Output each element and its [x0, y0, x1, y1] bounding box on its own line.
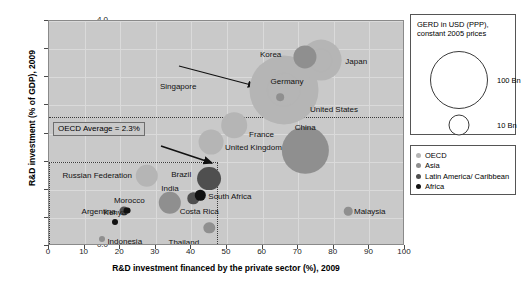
x-tick-label: 90 [353, 248, 383, 256]
x-tick-mark [368, 245, 369, 249]
point-label-united-kingdom: United Kingdom [225, 144, 282, 152]
point-label-malaysia: Malaysia [354, 208, 386, 216]
point-label-russian-federation: Russian Federation [63, 172, 132, 180]
x-tick-mark [333, 245, 334, 249]
size-legend-circle-10-bn [449, 115, 470, 136]
color-legend-item-asia[interactable]: Asia [416, 161, 510, 172]
bubble-france[interactable] [221, 112, 247, 138]
x-tick-mark [226, 245, 227, 249]
x-tick-label: 20 [104, 248, 134, 256]
bubble-singapore[interactable] [277, 93, 285, 101]
point-label-brazil: Brazil [171, 171, 191, 179]
point-label-costa-rica: Costa Rica [180, 208, 219, 216]
x-tick-label: 30 [140, 248, 170, 256]
x-tick-mark [155, 245, 156, 249]
point-label-thailand: Thailand [169, 239, 200, 245]
plot-area: KoreaJapanGermanySingaporeUnited StatesF… [48, 20, 404, 245]
color-legend-swatch [416, 153, 421, 158]
point-label-germany: Germany [271, 78, 304, 86]
color-legend: OECDAsiaLatin America/ CaribbeanAfrica [410, 145, 516, 195]
x-tick-label: 10 [69, 248, 99, 256]
point-label-japan: Japan [345, 58, 367, 66]
size-legend-title-line2: constant 2005 prices [417, 29, 486, 38]
x-tick-label: 80 [318, 248, 348, 256]
x-tick-mark [404, 245, 405, 249]
x-tick-mark [48, 245, 49, 249]
x-tick-label: 40 [175, 248, 205, 256]
color-legend-label: OECD [425, 152, 447, 160]
point-label-korea: Korea [260, 51, 281, 59]
color-legend-swatch [416, 184, 421, 189]
point-label-singapore: Singapore [160, 83, 196, 91]
size-legend-title-line1: GERD in USD (PPP), [417, 20, 489, 29]
point-label-morocco: Morocco [114, 197, 145, 205]
color-legend-swatch [416, 174, 421, 179]
bubble-korea[interactable] [294, 45, 317, 68]
color-legend-swatch [416, 163, 421, 168]
oecd-average-label: OECD Average = 2.3% [53, 122, 145, 136]
size-legend-label-100-bn: 100 Bn [497, 76, 521, 85]
bubble-brazil[interactable] [197, 167, 221, 191]
x-tick-mark [190, 245, 191, 249]
x-tick-label: 50 [211, 248, 241, 256]
point-label-china: China [295, 124, 316, 132]
point-label-france: France [249, 131, 274, 139]
x-tick-mark [84, 245, 85, 249]
bubble-kenya[interactable] [112, 219, 118, 225]
size-legend: GERD in USD (PPP), constant 2005 prices … [410, 14, 516, 135]
size-legend-label-10-bn: 10 Bn [497, 121, 517, 130]
y-axis-title: R&D investment (% of GDP), 2009 [27, 8, 37, 228]
bubble-malaysia[interactable] [344, 207, 353, 216]
color-legend-item-latin-america-caribbean[interactable]: Latin America/ Caribbean [416, 171, 510, 182]
color-legend-item-africa[interactable]: Africa [416, 182, 510, 193]
point-label-indonesia: Indonesia [107, 238, 142, 245]
bubble-united-kingdom[interactable] [199, 129, 224, 154]
chart-screenshot: R&D investment (% of GDP), 2009 R&D inve… [0, 0, 522, 282]
color-legend-label: Africa [425, 183, 444, 191]
size-legend-title: GERD in USD (PPP), constant 2005 prices [417, 20, 513, 39]
color-legend-label: Latin America/ Caribbean [425, 173, 509, 181]
color-legend-label: Asia [425, 162, 440, 170]
x-tick-label: 100 [389, 248, 419, 256]
x-tick-mark [262, 245, 263, 249]
x-tick-mark [119, 245, 120, 249]
size-legend-circle-100-bn [430, 51, 488, 109]
x-axis-title: R&D investment financed by the private s… [48, 263, 404, 273]
point-label-kenya: Kenya [104, 209, 127, 217]
point-label-south-africa: South Africa [208, 193, 251, 201]
x-tick-label: 70 [282, 248, 312, 256]
point-label-united-states: United States [310, 106, 358, 114]
x-tick-label: 0 [33, 248, 63, 256]
x-tick-label: 60 [247, 248, 277, 256]
color-legend-item-oecd[interactable]: OECD [416, 150, 510, 161]
point-label-india: India [161, 185, 178, 193]
bubble-indonesia[interactable] [99, 236, 105, 242]
x-tick-mark [297, 245, 298, 249]
